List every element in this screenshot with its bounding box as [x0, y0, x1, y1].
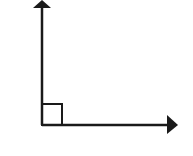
background	[0, 0, 193, 156]
right-angle-diagram	[0, 0, 193, 156]
